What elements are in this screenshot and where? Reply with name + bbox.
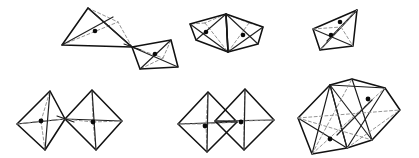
hidden-edge	[298, 118, 372, 140]
central-atom-dot	[204, 30, 209, 35]
octahedron-left	[17, 91, 65, 150]
hidden-edge	[41, 121, 45, 150]
octahedron-pair-face-sharing	[298, 79, 400, 154]
visible-edges	[190, 14, 228, 52]
hidden-edge	[347, 110, 400, 148]
hidden-edge	[118, 22, 132, 47]
central-atom-dot	[153, 52, 158, 57]
tetrahedron-right	[226, 14, 263, 52]
diagram-canvas	[0, 0, 419, 158]
polyhedra-diagram	[0, 0, 419, 158]
central-atom-dot	[203, 124, 208, 129]
central-atom-dot	[239, 120, 244, 125]
hidden-edge	[163, 40, 171, 58]
central-atom-dot	[328, 137, 333, 142]
tetrahedron-left	[62, 8, 132, 47]
central-atom-dot	[241, 33, 246, 38]
central-atom-dot	[329, 33, 334, 38]
internal-diagonal	[228, 27, 263, 52]
shared-face-edge	[313, 29, 353, 46]
internal-axis	[244, 89, 245, 150]
hidden-edge	[93, 121, 122, 122]
central-atom-dot	[93, 29, 98, 34]
tetrahedron-pair-face-sharing	[313, 10, 357, 50]
tetrahedron-left	[190, 14, 228, 52]
tetrahedron-right	[132, 40, 178, 69]
tetrahedron-pair-edge-sharing	[190, 14, 263, 52]
internal-diagonal	[226, 14, 258, 44]
hidden-edge	[298, 110, 400, 118]
visible-outline	[298, 79, 400, 154]
octahedron-right	[215, 89, 274, 150]
central-atom-dot	[338, 20, 343, 25]
central-atom-dot	[39, 119, 44, 124]
octahedron-right	[65, 90, 122, 150]
internal-diagonal	[62, 17, 113, 45]
central-atom-dot	[91, 120, 96, 125]
hidden-edge	[312, 88, 385, 154]
octahedron-pair-corner-sharing	[17, 90, 122, 150]
tetrahedron-pair-corner-sharing	[62, 8, 178, 69]
octahedron-pair-edge-sharing	[178, 89, 274, 152]
hidden-edge	[88, 8, 118, 22]
central-atom-dot	[366, 97, 371, 102]
visible-edge	[347, 88, 385, 148]
